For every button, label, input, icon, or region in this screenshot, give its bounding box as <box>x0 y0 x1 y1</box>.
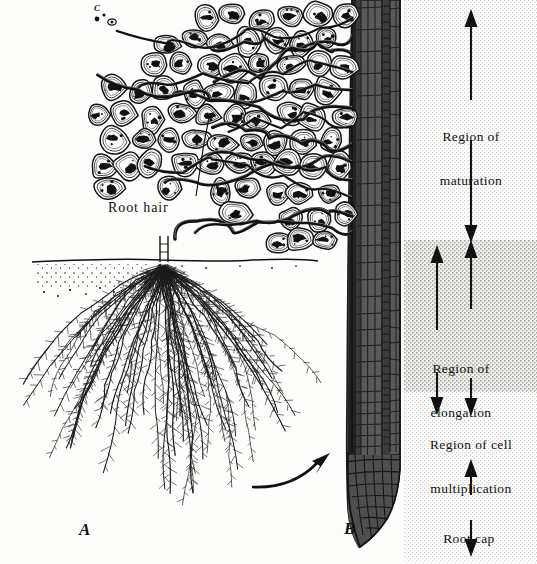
region-label-root-cap: Root cap <box>411 503 527 564</box>
region-label-maturation: Region of maturation <box>413 101 529 218</box>
panel-label-a: A <box>79 521 91 539</box>
panel-label-b: B <box>344 520 356 538</box>
figure-container: C Root hair A B Region of maturation Reg… <box>0 0 537 564</box>
panel-label-c: C <box>94 4 100 14</box>
region-cellmult-line1: Region of cell <box>409 438 533 453</box>
region-maturation-line2: maturation <box>413 174 529 189</box>
panel-b-root-tip <box>344 0 404 552</box>
root-hair-label: Root hair <box>108 200 169 215</box>
region-cellmult-line2: multiplication <box>409 482 533 497</box>
region-elongation-line1: Region of <box>405 362 517 377</box>
region-maturation-line1: Region of <box>413 130 529 145</box>
region-rootcap-line1: Root cap <box>411 532 527 547</box>
